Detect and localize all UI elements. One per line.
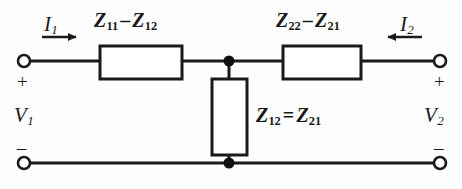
junction-node-bottom: [224, 158, 235, 169]
impedance-box-shunt: [212, 79, 247, 155]
polarity-sign-port2-negative: –: [434, 138, 444, 157]
polarity-sign-port1-negative: –: [17, 138, 27, 157]
two-port-equivalent-circuit-figure: I1 I2 Z11–Z12 Z22–Z21 Z12=Z21 V1 V2 + + …: [0, 0, 462, 189]
polarity-sign-port1-positive: +: [17, 72, 28, 91]
label-impedance-series-left: Z11–Z12: [94, 10, 157, 32]
terminal-port2-positive: [434, 55, 446, 67]
label-voltage-v1: V1: [14, 105, 34, 127]
junction-node-top: [224, 56, 235, 67]
circuit-schematic-svg: [0, 0, 462, 189]
label-current-i1: I1: [44, 14, 58, 36]
label-impedance-series-right: Z22–Z21: [276, 10, 340, 32]
polarity-sign-port2-positive: +: [434, 72, 445, 91]
label-impedance-shunt: Z12=Z21: [256, 105, 321, 127]
impedance-box-series-right: [283, 46, 361, 79]
label-current-i2: I2: [400, 14, 414, 36]
terminal-port1-negative: [18, 157, 30, 169]
label-voltage-v2: V2: [424, 105, 444, 127]
impedance-box-series-left: [100, 46, 182, 79]
terminal-port2-negative: [434, 157, 446, 169]
terminal-port1-positive: [18, 55, 30, 67]
